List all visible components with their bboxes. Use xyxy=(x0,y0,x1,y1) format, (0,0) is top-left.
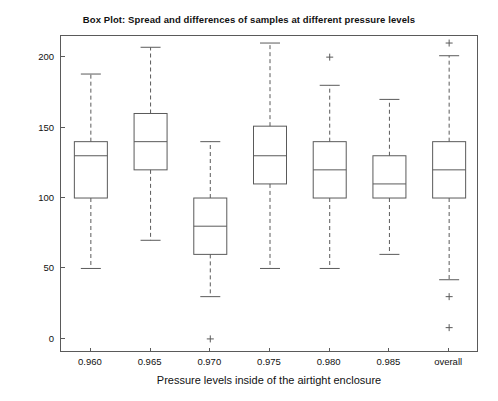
box-plot-item xyxy=(433,40,466,332)
box-plot-item xyxy=(313,54,346,269)
y-tick-label: 100 xyxy=(0,192,54,203)
box-iqr xyxy=(254,126,287,184)
box-iqr xyxy=(373,156,406,198)
box-plot-series xyxy=(61,36,479,353)
box-plot-item xyxy=(74,74,107,268)
y-tick-label: 50 xyxy=(0,262,54,273)
x-tick-mark xyxy=(388,348,389,352)
box-plot-item xyxy=(134,47,167,240)
x-tick-label: overall xyxy=(413,356,483,367)
y-tick-mark xyxy=(60,127,65,128)
box-plot-item xyxy=(373,99,406,254)
y-tick-mark xyxy=(60,197,65,198)
chart-title: Box Plot: Spread and differences of samp… xyxy=(0,14,498,25)
x-tick-mark xyxy=(329,348,330,352)
y-tick-label: 200 xyxy=(0,51,54,62)
box-iqr xyxy=(74,142,107,198)
x-tick-mark xyxy=(90,348,91,352)
y-tick-label: 150 xyxy=(0,121,54,132)
box-plot-figure: Box Plot: Spread and differences of samp… xyxy=(0,0,498,401)
box-plot-item xyxy=(194,142,227,343)
x-tick-mark xyxy=(150,348,151,352)
x-tick-mark xyxy=(448,348,449,352)
plot-area xyxy=(60,35,478,352)
box-plot-item xyxy=(254,43,287,268)
y-tick-mark xyxy=(60,338,65,339)
y-tick-label: 0 xyxy=(0,332,54,343)
x-tick-mark xyxy=(269,348,270,352)
x-tick-mark xyxy=(209,348,210,352)
x-axis-label: Pressure levels inside of the airtight e… xyxy=(60,374,478,386)
y-tick-mark xyxy=(60,56,65,57)
y-tick-mark xyxy=(60,267,65,268)
